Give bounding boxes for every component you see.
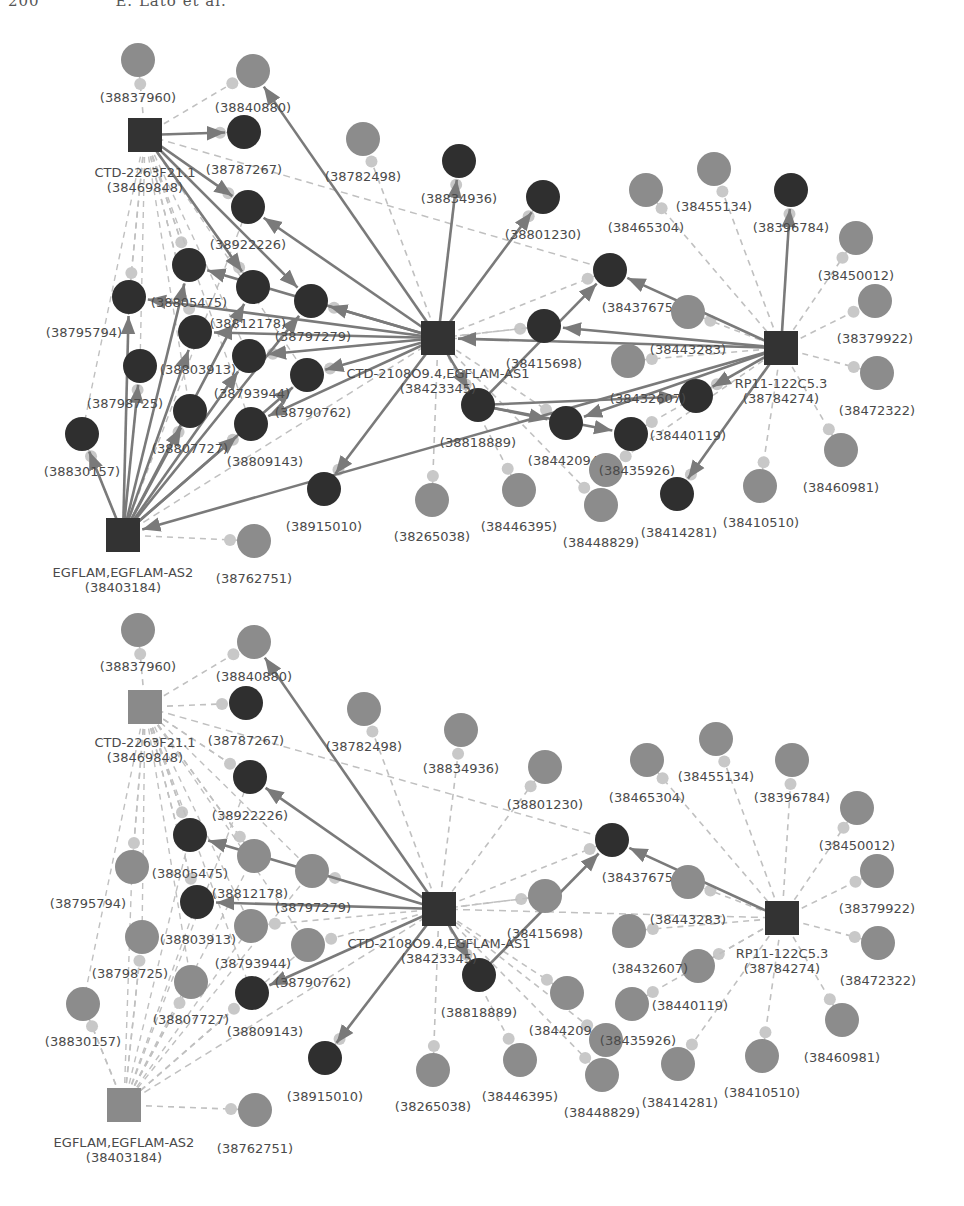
node-circle-icon — [444, 713, 478, 747]
node[interactable]: (38446395) — [481, 473, 557, 534]
node[interactable]: (38410510) — [723, 469, 799, 530]
node-circle-icon — [307, 472, 341, 506]
node[interactable]: (38922226) — [210, 190, 286, 252]
node[interactable]: (38379922) — [837, 284, 913, 346]
node[interactable]: (38805475) — [151, 248, 227, 310]
node[interactable]: (38840880) — [216, 625, 292, 684]
node-circle-icon — [526, 180, 560, 214]
node-circle-icon — [234, 909, 268, 943]
node[interactable]: (38795794) — [46, 280, 146, 340]
node-label: (38801230) — [507, 797, 583, 812]
node[interactable]: (38432607) — [612, 949, 715, 983]
node-circle-icon — [858, 284, 892, 318]
node[interactable]: (38837960) — [100, 43, 176, 105]
dashed-edge — [439, 909, 782, 918]
node[interactable]: (38801230) — [507, 750, 583, 812]
hub-node[interactable]: RP11-122C5.3(38784274) — [736, 901, 829, 976]
association-dot — [174, 997, 186, 1009]
node[interactable]: (38922226) — [212, 760, 288, 823]
node[interactable]: (38795794) — [50, 850, 149, 911]
node[interactable]: (38818889) — [441, 958, 517, 1020]
node[interactable]: (38455134) — [676, 152, 752, 214]
node[interactable]: (38415698) — [507, 879, 583, 941]
node[interactable] — [612, 914, 646, 948]
node-label: (38455134) — [676, 199, 752, 214]
node[interactable]: (38437675) — [593, 253, 678, 315]
node[interactable]: (38440119) — [615, 987, 728, 1021]
node-label: (38435926) — [599, 463, 675, 478]
node[interactable]: (38379922) — [839, 854, 915, 916]
node[interactable]: (38830157) — [45, 987, 121, 1049]
node[interactable]: (38801230) — [505, 180, 581, 242]
node-circle-icon — [774, 173, 808, 207]
node-label: (38455134) — [678, 769, 754, 784]
node[interactable]: (38437675) — [595, 823, 678, 885]
node[interactable]: (38782498) — [326, 692, 402, 754]
node[interactable]: (38782498) — [325, 122, 401, 184]
node[interactable]: (38834936) — [421, 144, 497, 206]
node-circle-icon — [775, 743, 809, 777]
node[interactable]: (38435926) — [589, 453, 675, 487]
node[interactable]: (38410510) — [724, 1039, 800, 1100]
hub-pmid: (38784274) — [744, 961, 820, 976]
node[interactable]: (38915010) — [286, 472, 362, 534]
association-dot — [848, 306, 860, 318]
association-dot — [716, 185, 728, 197]
node[interactable]: (38450012) — [818, 221, 894, 283]
node[interactable]: (38818889) — [440, 388, 516, 450]
node[interactable]: (38396784) — [753, 173, 829, 235]
node-label: (38787267) — [206, 162, 282, 177]
node-circle-icon — [660, 477, 694, 511]
node-label: (38265038) — [394, 529, 470, 544]
node-circle-icon — [234, 407, 268, 441]
node[interactable]: (38465304) — [609, 743, 685, 805]
node[interactable]: (38265038) — [394, 483, 470, 544]
node[interactable]: (38448829) — [563, 488, 639, 550]
node[interactable]: (38837960) — [100, 613, 176, 674]
node[interactable]: (38432607) — [610, 379, 713, 413]
node[interactable]: (38787267) — [208, 686, 284, 748]
node[interactable]: (38834936) — [423, 713, 499, 776]
node[interactable]: (38446395) — [482, 1043, 558, 1104]
hub-node[interactable]: RP11-122C5.3(38784274) — [735, 331, 828, 406]
node-circle-icon — [839, 221, 873, 255]
node[interactable]: (38830157) — [44, 417, 120, 479]
node[interactable]: (38435926) — [589, 1023, 676, 1057]
node[interactable]: (38460981) — [804, 1003, 880, 1065]
node[interactable]: (38798725) — [92, 920, 168, 981]
node-circle-icon — [502, 473, 536, 507]
node-circle-icon — [123, 349, 157, 383]
hub-node[interactable]: EGFLAM,EGFLAM-AS2(38403184) — [54, 1088, 195, 1165]
hub-node[interactable]: CTD-2108O9.4,EGFLAM-AS1(38423345) — [346, 321, 529, 396]
node-circle-icon — [236, 54, 270, 88]
hub-node[interactable]: CTD-2108O9.4,EGFLAM-AS1(38423345) — [347, 892, 530, 966]
node[interactable]: (38396784) — [754, 743, 830, 805]
node[interactable]: (38805475) — [152, 818, 228, 881]
node[interactable]: (38798725) — [87, 349, 163, 411]
node[interactable]: (38787267) — [206, 115, 282, 177]
node[interactable]: (38414281) — [641, 477, 717, 540]
node[interactable] — [611, 344, 645, 378]
hub-square-icon — [765, 901, 799, 935]
node-circle-icon — [671, 865, 705, 899]
node[interactable]: (38465304) — [608, 173, 684, 235]
node[interactable]: (38450012) — [819, 791, 895, 853]
node[interactable]: (38440119) — [614, 417, 726, 451]
node-circle-icon — [840, 791, 874, 825]
node[interactable]: (38455134) — [678, 722, 754, 784]
association-dot — [718, 756, 730, 768]
hub-node[interactable]: CTD-2263F21.1(38469848) — [94, 690, 195, 765]
node[interactable]: (38840880) — [215, 54, 291, 115]
node[interactable]: (38460981) — [803, 433, 879, 495]
node-label: (38793944) — [214, 386, 290, 401]
node[interactable]: (38762751) — [217, 1093, 293, 1156]
node[interactable]: (38448829) — [564, 1058, 640, 1120]
node-circle-icon — [172, 248, 206, 282]
node[interactable]: (38915010) — [287, 1041, 363, 1104]
hub-node[interactable]: CTD-2263F21.1(38469848) — [94, 118, 195, 195]
node-label: (38798725) — [87, 396, 163, 411]
node[interactable]: (38414281) — [642, 1047, 718, 1110]
node[interactable]: (38265038) — [395, 1053, 471, 1114]
node-circle-icon — [630, 743, 664, 777]
association-dot — [224, 758, 236, 770]
